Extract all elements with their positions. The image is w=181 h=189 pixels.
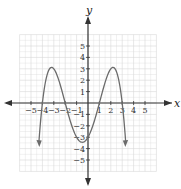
svg-text:−4: −4 bbox=[73, 145, 85, 154]
svg-text:3: 3 bbox=[80, 65, 85, 74]
svg-text:4: 4 bbox=[80, 53, 85, 62]
axes bbox=[4, 16, 172, 186]
svg-text:−2: −2 bbox=[73, 122, 85, 131]
svg-text:2: 2 bbox=[108, 106, 113, 115]
svg-text:1: 1 bbox=[80, 88, 85, 97]
svg-text:−3: −3 bbox=[48, 106, 60, 115]
chart-svg: −5−4−3−2−112345−5−4−3−2−112345 x y bbox=[0, 0, 181, 189]
x-axis-label: x bbox=[174, 97, 181, 110]
y-axis-label: y bbox=[85, 4, 93, 17]
polynomial-graph: −5−4−3−2−112345−5−4−3−2−112345 x y bbox=[0, 0, 181, 189]
svg-text:5: 5 bbox=[80, 42, 85, 51]
svg-text:5: 5 bbox=[142, 106, 147, 115]
svg-text:−5: −5 bbox=[25, 106, 37, 115]
svg-text:−1: −1 bbox=[73, 110, 85, 119]
svg-text:2: 2 bbox=[80, 76, 85, 85]
svg-text:−2: −2 bbox=[59, 106, 71, 115]
svg-text:4: 4 bbox=[131, 106, 136, 115]
svg-text:−5: −5 bbox=[73, 156, 85, 165]
